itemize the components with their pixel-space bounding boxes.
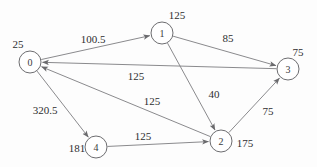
edge-weight-label-1-3: 85 bbox=[223, 32, 235, 44]
graph-node-4[interactable]: 4 bbox=[85, 136, 107, 158]
graph-canvas: 01234 100.5851254012575320.5125251251757… bbox=[0, 0, 317, 167]
node-id-label-4: 4 bbox=[94, 142, 99, 153]
node-weight-label-3: 75 bbox=[293, 46, 305, 58]
edge-weight-label-0-1: 100.5 bbox=[81, 33, 106, 45]
node-layer: 01234 bbox=[19, 22, 299, 158]
node-id-label-1: 1 bbox=[160, 28, 165, 39]
graph-node-1[interactable]: 1 bbox=[151, 22, 173, 44]
edge-weight-label-2-3: 75 bbox=[263, 105, 275, 117]
node-weight-label-1: 125 bbox=[169, 9, 186, 21]
node-id-label-2: 2 bbox=[219, 136, 224, 147]
graph-edge-3-0 bbox=[42, 62, 276, 68]
edge-weight-label-0-4: 320.5 bbox=[33, 104, 58, 116]
edge-weight-label-2-0: 125 bbox=[144, 95, 161, 107]
edge-weight-label-4-2: 125 bbox=[135, 130, 152, 142]
graph-figure: 01234 100.5851254012575320.5125251251757… bbox=[0, 0, 317, 167]
graph-node-0[interactable]: 0 bbox=[19, 51, 41, 73]
graph-edge-2-0 bbox=[42, 67, 211, 137]
graph-node-3[interactable]: 3 bbox=[277, 58, 299, 80]
node-weight-label-4: 181 bbox=[69, 142, 86, 154]
node-id-label-3: 3 bbox=[286, 64, 291, 75]
node-weight-label-0: 25 bbox=[13, 38, 25, 50]
graph-edge-1-2 bbox=[168, 43, 215, 130]
graph-edge-4-2 bbox=[107, 142, 208, 147]
graph-node-2[interactable]: 2 bbox=[210, 130, 232, 152]
node-id-label-0: 0 bbox=[28, 57, 33, 68]
edge-weight-label-1-2: 40 bbox=[209, 88, 221, 100]
edge-layer bbox=[37, 36, 279, 147]
edge-weight-label-3-0: 125 bbox=[128, 70, 145, 82]
node-weight-label-2: 175 bbox=[237, 137, 254, 149]
